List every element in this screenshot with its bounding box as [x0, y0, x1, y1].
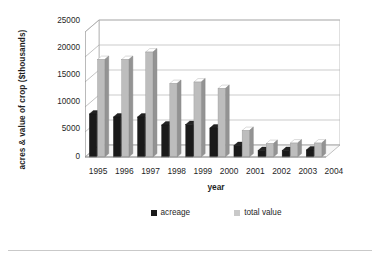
x-tick-label: 1997 — [137, 166, 163, 180]
y-tick-label: 5000 — [36, 124, 80, 133]
plot-canvas — [85, 14, 340, 166]
x-tick-label: 2001 — [242, 166, 268, 180]
legend-item-total-value: total value — [234, 208, 281, 217]
x-axis-tick-labels: 1995 1996 1997 1998 1999 2000 2001 2002 … — [85, 166, 347, 180]
x-tick-label: 1995 — [85, 166, 111, 180]
x-tick-label: 2002 — [268, 166, 294, 180]
x-tick-label: 2004 — [321, 166, 347, 180]
bar-chart-figure: acres & value of crop ($thousands) 25000… — [0, 0, 380, 246]
x-tick-label: 2000 — [216, 166, 242, 180]
x-tick-label: 2003 — [295, 166, 321, 180]
legend-item-acreage: acreage — [151, 208, 191, 217]
y-axis-tick-labels: 25000 20000 15000 10000 5000 0 — [33, 14, 80, 164]
x-tick-label: 1999 — [190, 166, 216, 180]
footer-divider — [8, 250, 372, 251]
y-tick-label: 10000 — [36, 97, 80, 106]
x-tick-label: 1996 — [111, 166, 137, 180]
chart-legend: acreage total value — [85, 208, 347, 217]
x-tick-label: 1998 — [164, 166, 190, 180]
plot-area — [85, 14, 340, 162]
legend-swatch-icon — [151, 210, 157, 216]
y-tick-label: 15000 — [36, 70, 80, 79]
y-tick-label: 20000 — [36, 43, 80, 52]
x-axis-title: year — [85, 182, 347, 192]
y-tick-label: 25000 — [36, 16, 80, 25]
y-tick-label: 0 — [36, 152, 80, 161]
legend-swatch-icon — [234, 210, 240, 216]
legend-label: acreage — [161, 208, 191, 217]
y-axis-title: acres & value of crop ($thousands) — [18, 20, 27, 180]
legend-label: total value — [244, 208, 281, 217]
